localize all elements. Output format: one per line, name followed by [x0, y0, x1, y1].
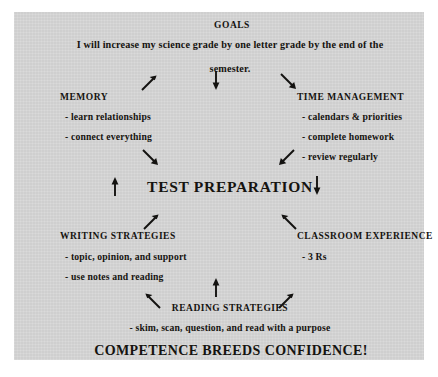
tagline: COMPETENCE BREEDS CONFIDENCE!: [94, 343, 368, 359]
memory-bullet-2: - connect everything: [65, 131, 152, 142]
time-management-heading: TIME MANAGEMENT: [297, 92, 404, 102]
writing-strategies-heading: WRITING STRATEGIES: [60, 231, 176, 241]
classroom-experience-bullet-1: - 3 Rs: [302, 251, 327, 262]
center-title: TEST PREPARATION: [147, 178, 313, 196]
diagram-root: GOALS I will increase my science grade b…: [0, 0, 438, 377]
arrow-up-right-icon: [142, 211, 162, 231]
time-management-bullet-3: - review regularly: [302, 151, 378, 162]
writing-strategies-bullet-2: - use notes and reading: [65, 271, 164, 282]
arrow-down-icon: [311, 175, 323, 197]
arrow-down-left-icon: [276, 148, 296, 168]
arrow-down-icon: [210, 70, 222, 92]
reading-strategies-bullet-1: - skim, scan, question, and read with a …: [130, 322, 331, 333]
memory-heading: MEMORY: [60, 92, 108, 102]
goals-heading: GOALS: [214, 20, 250, 30]
arrow-up-icon: [109, 175, 121, 197]
arrow-up-left-icon: [142, 290, 162, 310]
writing-strategies-bullet-1: - topic, opinion, and support: [65, 251, 187, 262]
memory-bullet-1: - learn relationships: [65, 111, 151, 122]
arrow-up-right-icon: [140, 72, 160, 92]
goals-line-1: I will increase my science grade by one …: [77, 39, 384, 50]
reading-strategies-heading: READING STRATEGIES: [172, 303, 288, 313]
diagram-panel: GOALS I will increase my science grade b…: [14, 12, 424, 360]
time-management-bullet-1: - calendars & priorities: [302, 111, 402, 122]
arrow-down-right-icon: [141, 148, 161, 168]
arrow-up-icon: [210, 276, 222, 298]
arrow-down-right-icon: [279, 72, 299, 92]
classroom-experience-heading: CLASSROOM EXPERIENCE: [297, 231, 433, 241]
time-management-bullet-2: - complete homework: [302, 131, 394, 142]
arrow-up-left-icon: [278, 211, 298, 231]
